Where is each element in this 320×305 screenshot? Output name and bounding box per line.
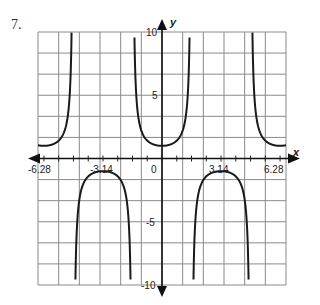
- x-tick-label-pi: 3.14: [209, 164, 229, 175]
- curve-branch: [193, 171, 248, 279]
- x-axis-left-arrow-icon: [28, 154, 40, 164]
- axes: [28, 19, 300, 297]
- x-tick-label-neg-pi: -3.14: [90, 164, 113, 175]
- curve-branch: [252, 33, 286, 146]
- x-tick-label-zero: 0: [151, 164, 157, 175]
- x-tick-label-neg-2pi: -6.28: [28, 164, 51, 175]
- y-axis-down-arrow-icon: [157, 286, 167, 297]
- sec-graph: -6.28 -3.14 0 3.14 6.28 10 5 -5 -10 x y: [0, 0, 320, 305]
- y-axis-label: y: [169, 16, 177, 28]
- y-tick-label-5: 5: [152, 90, 158, 101]
- x-tick-label-2pi: 6.28: [264, 164, 284, 175]
- curve-branch: [75, 171, 130, 279]
- y-tick-label-neg-5: -5: [146, 217, 155, 228]
- curve-branch: [38, 33, 72, 146]
- y-axis-up-arrow-icon: [157, 19, 167, 30]
- y-tick-label-neg-10: -10: [141, 280, 156, 291]
- y-tick-label-10: 10: [146, 27, 158, 38]
- x-axis-label: x: [292, 146, 300, 158]
